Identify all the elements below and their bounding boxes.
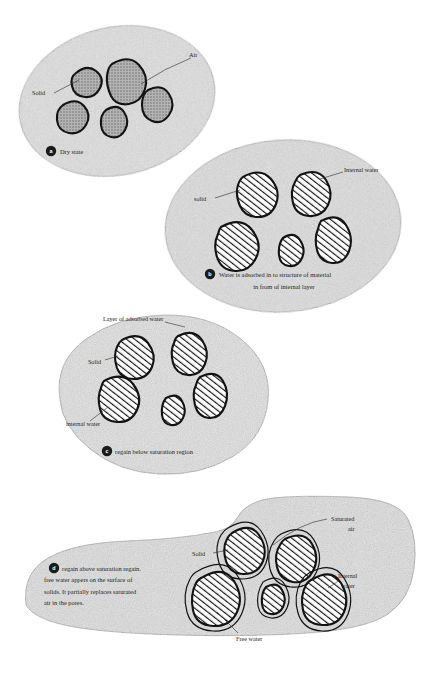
- diagram-svg: Solid Air a Dry state solid Internal wat…: [0, 0, 422, 673]
- panel-d-label-free-water: Free water: [236, 635, 262, 642]
- panel-d-label-internal-water-line2: water: [341, 582, 355, 589]
- panel-d-label-internal-water-line1: Internal: [338, 572, 358, 579]
- panel-d-badge-letter: d: [52, 565, 55, 571]
- figure-canvas: Solid Air a Dry state solid Internal wat…: [0, 0, 422, 673]
- panel-d-caption-line1: regain above saturation regain.: [62, 565, 141, 572]
- panel-d-label-saturated-air-line1: Saturated: [331, 515, 355, 522]
- panel-a: Solid Air a Dry state: [4, 7, 230, 196]
- panel-c-label-internal-water: internal water: [66, 420, 100, 427]
- panel-c-label-solid: Solid: [88, 358, 102, 365]
- panel-b-caption-line1: Water is adsorbed in to structure of mat…: [219, 271, 331, 278]
- panel-c-caption: regain below saturation region: [115, 448, 194, 455]
- panel-c-label-layer-of-adsorbed-water: Layer of adsorbed water: [103, 315, 163, 322]
- panel-d-caption-line4: air in the pores.: [44, 599, 84, 606]
- panel-b-label-internal-water: Internal water: [344, 166, 379, 173]
- panel-d: Saturated air Solid Internal water Free …: [25, 496, 415, 642]
- panel-c-badge-letter: c: [106, 448, 109, 454]
- panel-b-label-solid: solid: [194, 195, 207, 202]
- panel-b-matrix: [159, 132, 406, 320]
- panel-c: Layer of adsorbed water Solid internal w…: [59, 315, 268, 474]
- panel-a-caption: Dry state: [60, 148, 83, 155]
- panel-a-label-air: Air: [189, 51, 197, 58]
- panel-d-label-solid: Solid: [192, 550, 206, 557]
- panel-d-label-saturated-air-line2: air: [348, 525, 355, 532]
- panel-b: solid Internal water b Water is adsorbed…: [159, 132, 406, 320]
- panel-a-label-solid: Solid: [32, 89, 46, 96]
- panel-d-caption-line2: free water appers on the surface of: [44, 576, 133, 583]
- panel-b-caption-line2: in from of internal layer: [253, 283, 315, 290]
- panel-d-caption-line3: solids. It partially replaces saturated: [44, 588, 137, 595]
